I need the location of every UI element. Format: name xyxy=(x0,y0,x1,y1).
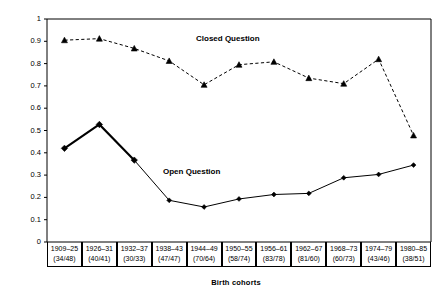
cohort-range: 1968–73 xyxy=(327,244,360,254)
cohort-range: 1932–37 xyxy=(118,244,151,254)
y-axis-tick-label: 0.1 xyxy=(17,216,41,224)
series-closed-question xyxy=(61,36,416,138)
cohort-range: 1962–67 xyxy=(292,244,325,254)
series-label-closed: Closed Question xyxy=(196,34,260,43)
cohort-counts: (47/47) xyxy=(153,254,186,264)
data-point xyxy=(202,205,207,210)
data-point xyxy=(411,132,417,138)
data-point xyxy=(306,191,311,196)
cohort-range: 1944–49 xyxy=(188,244,221,254)
y-axis-tick-label: 0.5 xyxy=(17,127,41,135)
data-point xyxy=(306,75,312,81)
cohort-range: 1938–43 xyxy=(153,244,186,254)
cohort-cell: 1909–25(34/48) xyxy=(47,242,82,266)
data-point xyxy=(272,192,277,197)
data-point xyxy=(376,172,381,177)
cohort-range: 1909–25 xyxy=(48,244,81,254)
cohort-counts: (81/60) xyxy=(292,254,325,264)
cohort-cell: 1944–49(70/64) xyxy=(187,242,222,266)
cohort-range: 1950–55 xyxy=(223,244,256,254)
cohort-counts: (83/78) xyxy=(257,254,290,264)
cohort-cell: 1950–55(58/74) xyxy=(222,242,257,266)
y-axis-tick-label: 0.2 xyxy=(17,193,41,201)
data-point xyxy=(271,59,277,65)
y-axis-tick-label: 0.7 xyxy=(17,82,41,90)
series-label-open: Open Question xyxy=(163,167,220,176)
series-line-thick xyxy=(64,124,134,160)
cohort-range: 1956–61 xyxy=(257,244,290,254)
cohort-counts: (60/73) xyxy=(327,254,360,264)
data-point xyxy=(201,82,207,88)
cohort-range: 1926–31 xyxy=(83,244,116,254)
cohort-counts: (40/41) xyxy=(83,254,116,264)
y-axis-tick-label: 0.3 xyxy=(17,171,41,179)
cohort-range: 1974–79 xyxy=(362,244,395,254)
y-axis-tick-label: 0.4 xyxy=(17,149,41,157)
y-axis-tick-label: 0 xyxy=(17,238,41,246)
cohort-counts: (58/74) xyxy=(223,254,256,264)
cohort-cell: 1974–79(43/46) xyxy=(361,242,396,266)
x-axis-title: Birth cohorts xyxy=(40,278,432,287)
data-point xyxy=(376,56,382,62)
cohort-cell: 1932–37(30/33) xyxy=(117,242,152,266)
cohort-cell: 1938–43(47/47) xyxy=(152,242,187,266)
data-point xyxy=(411,163,416,168)
cohort-range: 1980–85 xyxy=(397,244,430,254)
cohort-table-bottom-border xyxy=(47,266,431,267)
data-point xyxy=(237,197,242,202)
cohort-counts: (43/46) xyxy=(362,254,395,264)
cohort-cell: 1926–31(40/41) xyxy=(82,242,117,266)
series-open-question xyxy=(61,121,416,209)
cohort-cell: 1956–61(83/78) xyxy=(256,242,291,266)
series-line xyxy=(64,39,413,136)
data-point xyxy=(96,36,102,42)
cohort-counts: (34/48) xyxy=(48,254,81,264)
y-axis-tick-label: 0.6 xyxy=(17,104,41,112)
data-point xyxy=(166,58,172,64)
y-axis-tick-label: 1 xyxy=(17,15,41,23)
cohort-cell: 1980–85(38/51) xyxy=(396,242,431,266)
cohort-counts: (70/64) xyxy=(188,254,221,264)
chart-figure: Predicted probabilities Closed Question … xyxy=(0,0,446,300)
cohort-counts: (30/33) xyxy=(118,254,151,264)
cohort-cell: 1968–73(60/73) xyxy=(326,242,361,266)
y-axis-tick-label: 0.9 xyxy=(17,37,41,45)
y-axis-tick-label: 0.8 xyxy=(17,60,41,68)
cohort-counts: (38/51) xyxy=(397,254,430,264)
cohort-cell: 1962–67(81/60) xyxy=(291,242,326,266)
data-point xyxy=(341,175,346,180)
